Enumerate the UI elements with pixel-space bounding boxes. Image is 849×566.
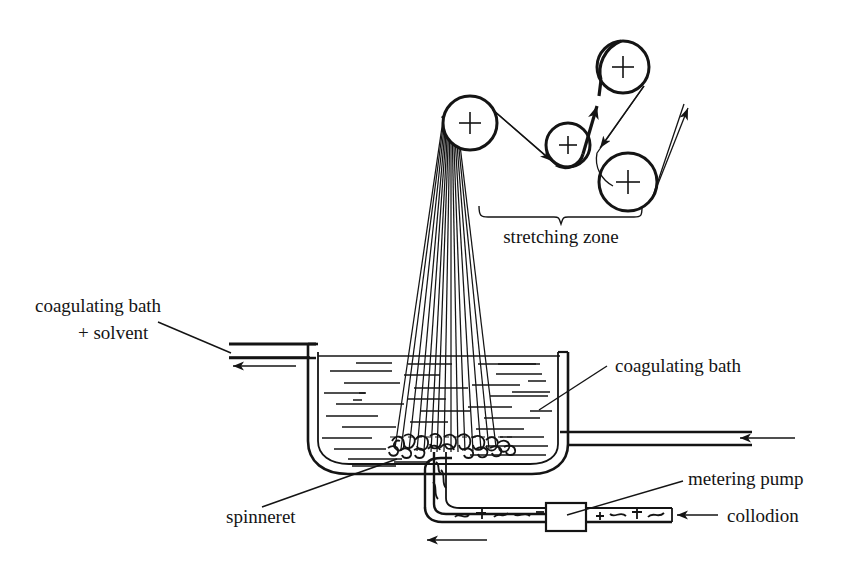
coagulating-bath-solvent-label-line1: coagulating bath [35,295,162,316]
spinneret-label: spinneret [226,506,296,527]
roller-1 [443,96,497,150]
coagulating-bath-leader [539,366,607,410]
coagulating-bath-solvent-label-line2: + solvent [78,322,149,343]
bath-inlet-pipe [560,432,752,445]
diagram-canvas: stretching zone coagulating bath + solve… [0,0,849,566]
coagulating-bath-solvent-leader [158,322,231,353]
roller-2 [546,123,590,167]
filament-bundle [395,119,496,452]
metering-pump-label: metering pump [688,468,804,489]
wet-spinning-diagram: stretching zone coagulating bath + solve… [0,0,849,566]
coagulating-bath-label: coagulating bath [615,355,742,376]
metering-pump-leader [567,481,683,515]
metering-pump-box [546,503,586,531]
overflow-pipe [229,344,316,358]
collodion-label: collodion [727,505,799,526]
roller-3 [597,41,649,93]
spinneret-leader [262,459,397,507]
yarn-path [493,41,688,199]
stretching-zone-label: stretching zone [503,226,619,247]
